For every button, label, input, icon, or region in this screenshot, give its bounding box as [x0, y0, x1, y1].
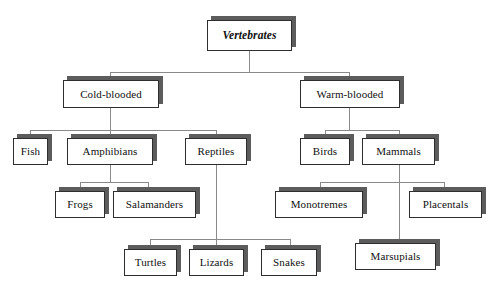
node-face: Monotremes: [275, 191, 363, 218]
connector-amphibians-down: [110, 165, 111, 182]
node-cold-blooded[interactable]: Cold-blooded: [63, 80, 159, 108]
node-turtles[interactable]: Turtles: [124, 249, 177, 276]
connector-cold-blooded-down: [110, 108, 111, 130]
connector-vertebrates-down: [249, 51, 250, 72]
node-face: Frogs: [55, 191, 105, 218]
node-warm-blooded[interactable]: Warm-blooded: [300, 80, 400, 108]
node-label-vertebrates: Vertebrates: [222, 30, 276, 42]
node-fish[interactable]: Fish: [13, 138, 48, 165]
node-label-monotremes: Monotremes: [291, 199, 348, 210]
node-amphibians[interactable]: Amphibians: [67, 138, 153, 165]
node-frogs[interactable]: Frogs: [55, 191, 105, 218]
node-placentals[interactable]: Placentals: [409, 191, 482, 218]
node-label-lizards: Lizards: [200, 257, 234, 268]
node-salamanders[interactable]: Salamanders: [113, 191, 196, 218]
node-face: Turtles: [124, 249, 177, 276]
vertebrates-diagram: Vertebrates Cold-blooded Warm-blooded Fi…: [0, 0, 498, 294]
node-face: Placentals: [409, 191, 482, 218]
node-face: Snakes: [261, 249, 317, 276]
node-monotremes[interactable]: Monotremes: [275, 191, 363, 218]
connector-mammal-bus: [320, 182, 444, 183]
node-face: Mammals: [362, 138, 435, 165]
node-marsupials[interactable]: Marsupials: [355, 243, 436, 270]
connector-warm-children-bus: [325, 130, 399, 131]
node-label-amphibians: Amphibians: [83, 146, 138, 157]
node-face: Warm-blooded: [300, 80, 400, 108]
node-face: Marsupials: [355, 243, 436, 270]
node-reptiles[interactable]: Reptiles: [185, 138, 247, 165]
node-snakes[interactable]: Snakes: [261, 249, 317, 276]
node-face: Salamanders: [113, 191, 196, 218]
connector-mammals-down: [399, 165, 400, 243]
connector-cold-children-bus: [30, 130, 216, 131]
node-label-reptiles: Reptiles: [198, 146, 235, 157]
node-face: Birds: [300, 138, 350, 165]
connector-amphibian-bus: [80, 182, 148, 183]
node-vertebrates[interactable]: Vertebrates: [207, 20, 292, 51]
node-label-salamanders: Salamanders: [126, 199, 183, 210]
node-label-turtles: Turtles: [135, 257, 166, 268]
node-lizards[interactable]: Lizards: [189, 249, 244, 276]
node-face: Reptiles: [185, 138, 247, 165]
node-label-snakes: Snakes: [273, 257, 305, 268]
node-label-placentals: Placentals: [423, 199, 469, 210]
node-label-fish: Fish: [21, 146, 40, 157]
node-label-cold-blooded: Cold-blooded: [80, 89, 142, 100]
node-face: Cold-blooded: [63, 80, 159, 108]
node-label-warm-blooded: Warm-blooded: [317, 89, 384, 100]
connector-reptile-bus: [150, 239, 290, 240]
node-mammals[interactable]: Mammals: [362, 138, 435, 165]
node-face: Fish: [13, 138, 48, 165]
node-label-marsupials: Marsupials: [371, 251, 421, 262]
node-label-mammals: Mammals: [376, 146, 421, 157]
node-birds[interactable]: Birds: [300, 138, 350, 165]
connector-reptiles-down: [216, 165, 217, 239]
node-face: Vertebrates: [207, 20, 292, 51]
connector-warm-blooded-down: [349, 108, 350, 130]
node-face: Lizards: [189, 249, 244, 276]
node-label-birds: Birds: [313, 146, 337, 157]
connector-level2-bus: [110, 72, 350, 73]
node-face: Amphibians: [67, 138, 153, 165]
node-label-frogs: Frogs: [67, 199, 93, 210]
